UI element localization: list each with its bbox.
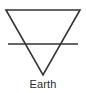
earth-symbol-icon	[0, 0, 86, 78]
symbol-caption: Earth	[0, 78, 86, 91]
inverted-triangle-icon	[6, 10, 80, 75]
earth-glyph-area	[0, 0, 86, 78]
earth-symbol-card: Earth	[0, 0, 86, 93]
